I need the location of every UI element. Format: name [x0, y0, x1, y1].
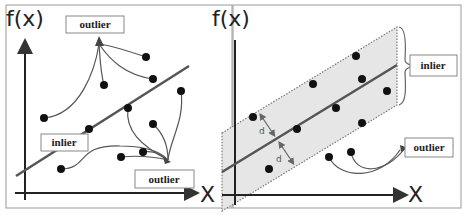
label-inlier: inlier	[410, 55, 457, 76]
svg-text:outlier: outlier	[413, 141, 444, 153]
svg-text:inlier: inlier	[420, 59, 445, 71]
diagram-canvas: f(x) X	[0, 0, 466, 215]
outlier-arrows-top	[44, 44, 153, 118]
y-axis-label: f(x)	[212, 6, 250, 31]
y-axis-label: f(x)	[6, 6, 44, 31]
x-axis-label: X	[200, 182, 215, 207]
label-outlier-bottom: outlier	[135, 170, 194, 188]
outlier-arrows	[329, 148, 405, 173]
svg-text:outlier: outlier	[79, 18, 110, 30]
label-outlier-top: outlier	[66, 16, 124, 33]
svg-text:inlier: inlier	[51, 136, 76, 148]
label-inlier: inlier	[41, 134, 88, 151]
svg-text:outlier: outlier	[148, 173, 179, 185]
right-panel: f(x) X d d	[212, 5, 461, 211]
x-axis-label: X	[408, 182, 423, 207]
left-panel: f(x) X	[6, 5, 232, 208]
distance-label-top: d	[259, 126, 265, 136]
label-outlier: outlier	[405, 138, 453, 157]
distance-label-bottom: d	[276, 154, 282, 164]
